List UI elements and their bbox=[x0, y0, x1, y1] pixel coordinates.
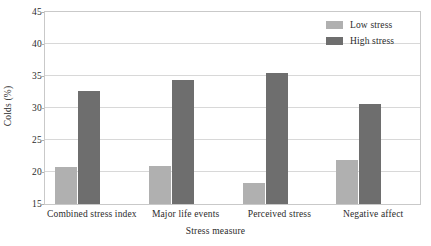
bar-group bbox=[45, 12, 139, 204]
y-tick-mark bbox=[40, 172, 44, 173]
bar-low-stress bbox=[243, 183, 265, 204]
x-tick-label: Perceived stress bbox=[248, 209, 311, 219]
legend-item: High stress bbox=[326, 34, 394, 48]
x-tick-label: Major life events bbox=[152, 209, 219, 219]
x-axis-title: Stress measure bbox=[0, 226, 431, 236]
legend-label: High stress bbox=[350, 36, 394, 46]
y-tick-label: 20 bbox=[12, 167, 42, 177]
x-tick-label: Combined stress index bbox=[47, 209, 137, 219]
bar-group bbox=[139, 12, 233, 204]
x-tick-label: Negative affect bbox=[343, 209, 403, 219]
legend-label: Low stress bbox=[350, 20, 392, 30]
bar-high-stress bbox=[359, 104, 381, 204]
bar-high-stress bbox=[78, 91, 100, 204]
y-tick-label: 25 bbox=[12, 135, 42, 145]
y-tick-mark bbox=[40, 140, 44, 141]
bar-group bbox=[233, 12, 327, 204]
y-tick-mark bbox=[40, 76, 44, 77]
bar-low-stress bbox=[149, 166, 171, 204]
y-tick-mark bbox=[40, 12, 44, 13]
y-tick-mark bbox=[40, 44, 44, 45]
y-tick-label: 35 bbox=[12, 71, 42, 81]
y-tick-label: 40 bbox=[12, 39, 42, 49]
x-axis-title-label: Stress measure bbox=[186, 226, 246, 236]
y-tick-mark bbox=[40, 204, 44, 205]
chart-legend: Low stressHigh stress bbox=[326, 18, 394, 50]
y-tick-label: 30 bbox=[12, 103, 42, 113]
y-tick-mark bbox=[40, 108, 44, 109]
y-tick-label: 45 bbox=[12, 7, 42, 17]
legend-swatch-low-stress bbox=[326, 21, 343, 29]
bar-high-stress bbox=[172, 80, 194, 204]
legend-swatch-high-stress bbox=[326, 37, 343, 45]
bar-high-stress bbox=[266, 73, 288, 204]
y-tick-label: 15 bbox=[12, 199, 42, 209]
legend-item: Low stress bbox=[326, 18, 394, 32]
bar-low-stress bbox=[55, 167, 77, 204]
bar-low-stress bbox=[336, 160, 358, 204]
bar-chart: Colds (%) 15202530354045 Combined stress… bbox=[0, 0, 431, 246]
